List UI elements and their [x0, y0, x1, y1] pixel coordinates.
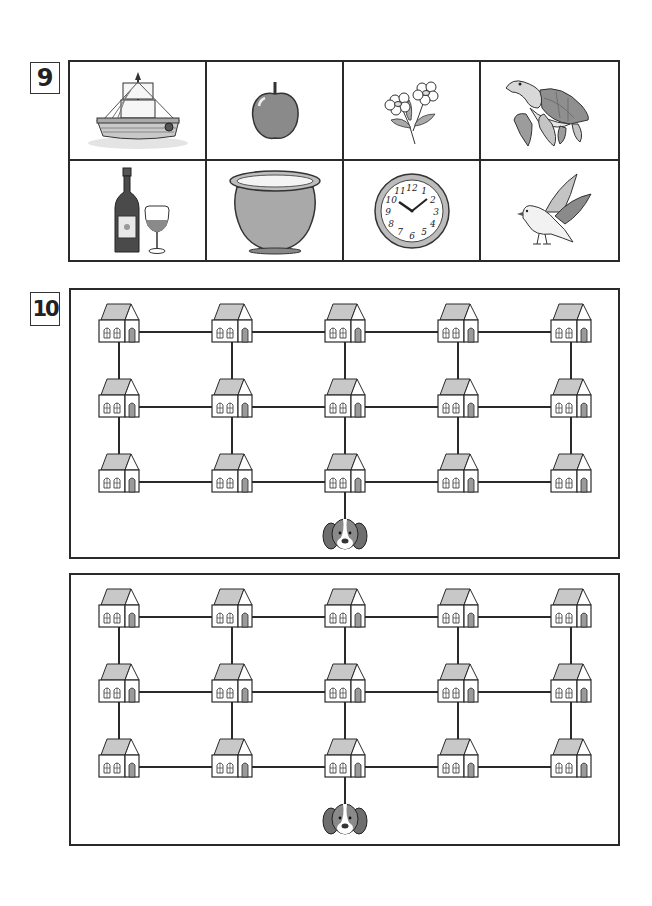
bird-icon — [505, 168, 595, 253]
clock-numeral: 4 — [428, 218, 435, 228]
house-maze-1 — [71, 290, 617, 556]
house-icon[interactable] — [551, 739, 591, 777]
picture-grid: 121234567891011 — [68, 60, 620, 262]
clock-numeral: 5 — [421, 227, 427, 237]
house-icon[interactable] — [99, 454, 139, 492]
house-icon[interactable] — [212, 664, 252, 702]
house-icon[interactable] — [212, 589, 252, 627]
house-icon[interactable] — [438, 739, 478, 777]
house-icon[interactable] — [99, 379, 139, 417]
house-icon[interactable] — [551, 454, 591, 492]
turtle-icon — [500, 68, 600, 153]
house-maze-panel-2 — [69, 573, 620, 846]
clock-numeral: 12 — [406, 182, 418, 192]
pot-icon — [227, 167, 323, 255]
house-icon[interactable] — [325, 664, 365, 702]
apple-icon — [245, 76, 305, 146]
house-icon[interactable] — [99, 589, 139, 627]
house-icon[interactable] — [551, 379, 591, 417]
house-icon[interactable] — [438, 379, 478, 417]
house-icon[interactable] — [438, 304, 478, 342]
clock-numeral: 1 — [421, 185, 427, 195]
house-icon[interactable] — [325, 739, 365, 777]
picture-cell-pot[interactable] — [207, 161, 344, 260]
house-icon[interactable] — [212, 739, 252, 777]
clock-numeral: 10 — [385, 194, 397, 204]
house-icon[interactable] — [551, 664, 591, 702]
house-icon[interactable] — [325, 589, 365, 627]
dog-icon[interactable] — [323, 519, 367, 549]
house-icon[interactable] — [99, 304, 139, 342]
picture-cell-wine[interactable] — [70, 161, 207, 260]
house-icon[interactable] — [212, 454, 252, 492]
picture-cell-turtle[interactable] — [481, 62, 618, 161]
house-icon[interactable] — [438, 664, 478, 702]
clock-icon: 121234567891011 — [372, 171, 452, 251]
house-icon[interactable] — [438, 589, 478, 627]
flowers-icon — [377, 76, 447, 146]
house-icon[interactable] — [99, 664, 139, 702]
ship-icon — [83, 68, 193, 153]
clock-numeral: 8 — [388, 218, 394, 228]
picture-cell-apple[interactable] — [207, 62, 344, 161]
house-icon[interactable] — [212, 379, 252, 417]
exercise-number-9: 9 — [30, 62, 60, 94]
picture-cell-clock[interactable]: 121234567891011 — [344, 161, 481, 260]
wine-icon — [103, 166, 173, 256]
dog-icon[interactable] — [323, 804, 367, 834]
house-icon[interactable] — [99, 739, 139, 777]
exercise-number-10: 10 — [30, 292, 60, 326]
clock-numeral: 3 — [433, 206, 439, 216]
clock-numeral: 7 — [397, 227, 403, 237]
picture-cell-bird[interactable] — [481, 161, 618, 260]
house-icon[interactable] — [325, 304, 365, 342]
house-maze-2 — [71, 575, 617, 843]
picture-cell-flowers[interactable] — [344, 62, 481, 161]
house-icon[interactable] — [325, 454, 365, 492]
house-icon[interactable] — [212, 304, 252, 342]
clock-numeral: 9 — [385, 206, 391, 216]
clock-numeral: 11 — [394, 185, 405, 195]
clock-numeral: 2 — [428, 194, 435, 204]
clock-numeral: 6 — [409, 230, 415, 240]
house-icon[interactable] — [325, 379, 365, 417]
picture-cell-ship[interactable] — [70, 62, 207, 161]
house-icon[interactable] — [438, 454, 478, 492]
house-icon[interactable] — [551, 589, 591, 627]
house-icon[interactable] — [551, 304, 591, 342]
house-maze-panel-1 — [69, 288, 620, 559]
